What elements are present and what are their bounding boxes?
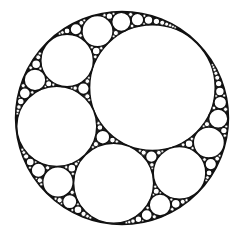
gap-circle <box>161 150 164 153</box>
gap-circle <box>204 122 209 127</box>
gap-circle <box>78 83 90 95</box>
gap-circle <box>172 25 175 28</box>
gap-circle <box>211 64 213 66</box>
gap-circle <box>128 221 131 224</box>
gap-circle <box>191 147 194 150</box>
gap-circle <box>169 24 172 27</box>
gap-circle <box>135 216 142 223</box>
gap-circle <box>131 219 135 223</box>
gap-circle <box>223 94 226 97</box>
gap-circle <box>223 134 226 137</box>
gap-circle <box>18 96 20 98</box>
gap-circle <box>185 199 188 202</box>
gap-circle <box>224 107 228 111</box>
gap-circle <box>71 172 74 175</box>
gap-circle <box>38 52 41 55</box>
gap-circle <box>138 149 141 152</box>
gap-circle <box>106 13 113 20</box>
gap-circle <box>181 143 185 147</box>
gap-circle <box>157 150 162 155</box>
gap-circle <box>77 203 79 205</box>
gap-circle <box>93 55 97 59</box>
gap-circle <box>103 14 106 17</box>
gap-circle <box>215 75 220 80</box>
gap-circle <box>159 192 161 194</box>
gap-circle <box>170 208 174 212</box>
gap-circle <box>100 47 103 50</box>
gap-circle <box>212 106 216 110</box>
gap-circle <box>52 83 55 86</box>
gap-circle <box>152 215 156 219</box>
gap-circle <box>58 33 60 35</box>
gap-circle <box>214 96 227 109</box>
gap-circle <box>131 13 144 26</box>
gap-circle <box>17 105 21 109</box>
gap-circle <box>112 12 131 31</box>
gap-circle <box>17 98 24 105</box>
gap-circle <box>150 163 154 167</box>
gap-circle <box>39 67 42 70</box>
gap-circle <box>21 148 24 151</box>
gap-circle <box>154 185 157 188</box>
gap-circle <box>64 28 70 34</box>
gap-circle <box>180 199 185 204</box>
gap-circle <box>206 170 212 176</box>
circle-group <box>16 12 228 224</box>
gap-circle <box>82 16 113 47</box>
gap-circle <box>24 154 29 159</box>
gap-circle <box>212 66 215 69</box>
gasket-canvas <box>0 0 239 243</box>
gap-circle <box>115 140 118 143</box>
gap-circle <box>92 47 100 55</box>
gap-circle <box>16 109 19 112</box>
gap-circle <box>215 80 222 87</box>
gap-circle <box>71 209 74 212</box>
gap-circle <box>215 95 217 97</box>
gap-circle <box>92 146 95 149</box>
gap-circle <box>141 210 152 221</box>
gap-circle <box>193 127 224 158</box>
gap-circle <box>73 86 77 90</box>
gap-circle <box>22 151 26 155</box>
gap-circle <box>146 206 149 209</box>
gap-circle <box>113 35 115 37</box>
gap-circle <box>141 150 146 155</box>
gap-circle <box>37 178 42 183</box>
gap-circle <box>19 88 30 99</box>
gap-circle <box>209 109 228 128</box>
gap-circle <box>35 177 37 179</box>
gap-circle <box>88 77 91 80</box>
gap-circle <box>16 112 18 114</box>
gap-circle <box>206 176 210 180</box>
gap-circle <box>89 216 92 219</box>
gap-circle <box>54 197 57 200</box>
gap-circle <box>86 214 90 218</box>
gap-circle <box>213 68 216 71</box>
large-circle <box>90 25 216 151</box>
gap-circle <box>185 140 193 148</box>
gap-circle <box>36 55 41 60</box>
gap-circle <box>57 198 62 203</box>
gap-circle <box>97 122 100 125</box>
gap-circle <box>21 84 25 88</box>
gap-circle <box>221 127 228 134</box>
gap-circle <box>205 179 207 181</box>
gap-circle <box>170 198 173 201</box>
gap-circle <box>152 193 154 195</box>
gap-circle <box>110 137 116 143</box>
gap-circle <box>40 183 43 186</box>
gap-circle <box>81 211 86 216</box>
gap-circle <box>143 14 146 17</box>
gap-circle <box>125 222 127 224</box>
gap-circle <box>31 91 34 94</box>
gap-circle <box>65 166 68 169</box>
gap-circle <box>190 137 193 140</box>
gap-circle <box>203 158 207 162</box>
gap-circle <box>85 94 90 99</box>
gap-circle <box>77 161 79 163</box>
gap-circle <box>130 24 134 28</box>
gap-circle <box>225 125 228 128</box>
gap-circle <box>61 31 65 35</box>
gap-circle <box>29 66 33 70</box>
gap-circle <box>46 79 48 81</box>
